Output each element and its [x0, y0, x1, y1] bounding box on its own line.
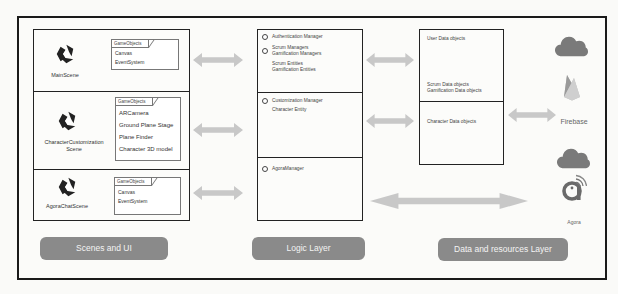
logic-section-customization: Customization Manager Character Entity — [258, 92, 362, 157]
logic-section-agora: AgoraManager — [258, 157, 362, 221]
gameobject-item: EventSystem — [118, 198, 147, 204]
scenes-column: MainScene GameObjects Canvas EventSystem… — [33, 29, 190, 221]
gear-icon — [262, 166, 268, 172]
scene-name: MainScene — [34, 72, 96, 79]
gameobjects-box: GameObjects Canvas EventSystem — [111, 39, 179, 70]
gameobjects-tab: GameObjects — [116, 98, 153, 106]
bidirectional-arrow-icon — [193, 123, 243, 137]
gameobject-item: Plane Finder — [119, 134, 153, 140]
scene-agora-chat: AgoraChatScene GameObjects Canvas EventS… — [34, 169, 189, 221]
agora-logo-icon — [561, 173, 587, 203]
data-object-label: User Data objects — [427, 36, 465, 42]
manager-label: Authentication Manager — [272, 34, 323, 40]
firebase-logo-icon — [562, 72, 582, 102]
scene-name: AgoraChatScene — [34, 203, 100, 210]
scene-character-customization: CharacterCustomization Scene GameObjects… — [34, 91, 189, 169]
entity-label: Character Entity — [272, 107, 306, 113]
logic-column: Authentication Manager Scrum Managers Ga… — [257, 29, 363, 221]
logic-layer-label: Logic Layer — [252, 237, 365, 260]
gameobjects-box: GameObjects Canvas EventSystem — [114, 177, 181, 215]
data-resources-layer-label: Data and resources Layer — [438, 238, 568, 261]
data-object-label: Gamification Data objects — [427, 88, 482, 94]
service-label-firebase: Firebase — [551, 118, 597, 125]
gear-icon — [262, 98, 268, 104]
gear-icon — [262, 34, 268, 40]
gameobjects-box: GameObjects ARCamera Ground Plane Stage … — [115, 97, 181, 161]
scenes-and-ui-layer-label: Scenes and UI — [40, 237, 168, 260]
manager-label: AgoraManager — [272, 166, 304, 172]
gameobjects-tab: GameObjects — [112, 40, 149, 48]
entity-label: Gamification Entities — [272, 67, 316, 73]
scene-name-line1: CharacterCustomization — [45, 139, 104, 145]
gear-icon — [262, 48, 268, 54]
bidirectional-arrow-icon — [193, 186, 243, 200]
bidirectional-arrow-icon — [370, 193, 528, 209]
scene-main: MainScene GameObjects Canvas EventSystem — [34, 30, 189, 91]
data-section-character: Character Data objects — [420, 101, 503, 165]
bidirectional-arrow-icon — [193, 53, 243, 67]
gameobject-item: Canvas — [118, 189, 135, 195]
gameobject-item: ARCamera — [119, 110, 149, 116]
data-column: User Data objects Scrum Data objects Gam… — [419, 29, 504, 165]
bidirectional-arrow-icon — [366, 114, 414, 128]
unity-logo-icon — [56, 110, 78, 132]
gameobject-item: EventSystem — [115, 59, 144, 65]
data-object-label: Character Data objects — [427, 119, 476, 125]
scene-name-line2: Scene — [66, 146, 82, 152]
service-label-agora: Agora — [558, 219, 590, 225]
logic-section-auth-scrum: Authentication Manager Scrum Managers Ga… — [258, 30, 362, 92]
manager-label: Gamification Managers — [272, 51, 321, 57]
gameobject-item: Character 3D model — [119, 146, 173, 152]
bidirectional-arrow-icon — [508, 108, 556, 122]
gameobjects-tab: GameObjects — [115, 178, 152, 186]
bidirectional-arrow-icon — [366, 53, 414, 67]
data-section-user-scrum: User Data objects Scrum Data objects Gam… — [420, 30, 503, 101]
cloud-icon — [555, 34, 588, 58]
scene-name: CharacterCustomization Scene — [34, 139, 114, 153]
gameobject-item: Canvas — [115, 50, 132, 56]
gameobject-item: Ground Plane Stage — [119, 122, 173, 128]
unity-logo-icon — [56, 176, 78, 198]
cloud-icon — [557, 146, 590, 170]
unity-logo-icon — [54, 43, 76, 65]
manager-label: Customization Manager — [272, 98, 323, 104]
